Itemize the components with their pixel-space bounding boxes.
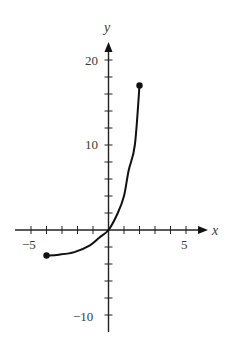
y-axis-arrow-icon xyxy=(105,42,113,52)
chart: x y −5 5 20 10 −10 xyxy=(0,0,228,345)
endpoint-left xyxy=(43,252,49,258)
x-axis-label: x xyxy=(211,223,219,238)
y-tick-label-20: 20 xyxy=(85,53,98,68)
x-tick-label-neg5: −5 xyxy=(22,237,36,252)
y-tick-label-neg10: −10 xyxy=(73,309,93,324)
x-tick-label-5: 5 xyxy=(181,237,188,252)
x-axis-arrow-icon xyxy=(198,226,208,234)
y-tick-label-10: 10 xyxy=(85,137,98,152)
endpoint-right xyxy=(136,82,142,88)
y-axis-label: y xyxy=(102,20,111,35)
